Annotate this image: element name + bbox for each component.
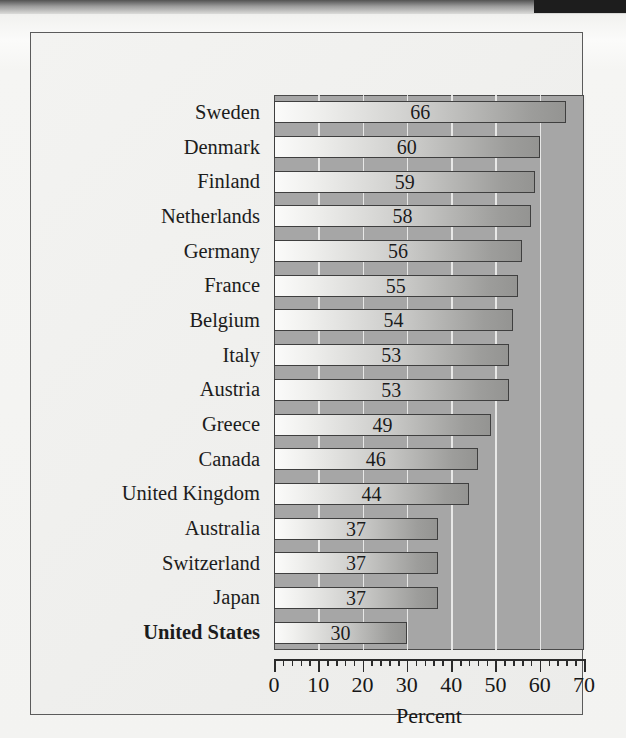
minor-tick-44: [469, 659, 471, 666]
minor-tick-18: [354, 659, 356, 666]
major-tick-60: [540, 659, 542, 672]
category-label: France: [64, 268, 267, 303]
bar-row: 37: [274, 511, 584, 546]
bar-row: 58: [274, 199, 584, 234]
axis-line: [274, 659, 584, 661]
plot-area: 66605958565554535349464437373730: [274, 95, 584, 650]
bar-value-label: 37: [346, 588, 366, 608]
bar-value-label: 44: [361, 484, 381, 504]
bar: 37: [274, 518, 438, 540]
bar-value-label: 55: [386, 276, 406, 296]
minor-tick-34: [425, 659, 427, 666]
minor-tick-48: [487, 659, 489, 666]
bar-value-label: 56: [388, 241, 408, 261]
category-label: Australia: [64, 511, 267, 546]
major-tick-20: [363, 659, 365, 672]
bar-value-label: 66: [410, 102, 430, 122]
tick-label-0: 0: [269, 674, 280, 696]
category-label: Austria: [64, 373, 267, 408]
bar-value-label: 30: [330, 623, 350, 643]
bar: 60: [274, 136, 540, 158]
bar-row: 55: [274, 268, 584, 303]
minor-tick-26: [389, 659, 391, 666]
category-label: Netherlands: [64, 199, 267, 234]
bar-value-label: 46: [366, 449, 386, 469]
bar: 37: [274, 587, 438, 609]
minor-tick-36: [433, 659, 435, 666]
minor-tick-38: [442, 659, 444, 666]
minor-tick-66: [566, 659, 568, 666]
bar-row: 56: [274, 234, 584, 269]
minor-tick-68: [575, 659, 577, 666]
bar: 53: [274, 344, 509, 366]
tick-label-50: 50: [484, 674, 506, 696]
category-label: United Kingdom: [64, 477, 267, 512]
minor-tick-14: [336, 659, 338, 666]
bar: 49: [274, 414, 491, 436]
figure-frame: SwedenDenmarkFinlandNetherlandsGermanyFr…: [30, 32, 583, 715]
bar-row: 53: [274, 338, 584, 373]
bar: 30: [274, 622, 407, 644]
minor-tick-58: [531, 659, 533, 666]
axis-title: Percent: [274, 703, 584, 729]
bar-row: 60: [274, 130, 584, 165]
minor-tick-12: [327, 659, 329, 666]
tick-label-30: 30: [396, 674, 418, 696]
minor-tick-46: [478, 659, 480, 666]
minor-tick-54: [513, 659, 515, 666]
minor-tick-52: [504, 659, 506, 666]
category-label: Finland: [64, 164, 267, 199]
category-label: Belgium: [64, 303, 267, 338]
bar: 56: [274, 240, 522, 262]
bar-value-label: 53: [381, 345, 401, 365]
bar: 59: [274, 171, 535, 193]
minor-tick-22: [371, 659, 373, 666]
major-tick-40: [451, 659, 453, 672]
bar-value-label: 53: [381, 380, 401, 400]
major-tick-30: [407, 659, 409, 672]
bar-value-label: 49: [373, 415, 393, 435]
category-label: Germany: [64, 234, 267, 269]
category-label: Canada: [64, 442, 267, 477]
bar-value-label: 54: [384, 310, 404, 330]
bar-value-label: 59: [395, 172, 415, 192]
bar-value-label: 37: [346, 553, 366, 573]
bar: 54: [274, 309, 513, 331]
minor-tick-64: [557, 659, 559, 666]
bar: 46: [274, 448, 478, 470]
category-label: Denmark: [64, 130, 267, 165]
bar-row: 37: [274, 546, 584, 581]
bar-series: 66605958565554535349464437373730: [274, 95, 584, 650]
category-label: Japan: [64, 581, 267, 616]
major-tick-0: [274, 659, 276, 672]
bar-row: 37: [274, 581, 584, 616]
value-axis: [274, 659, 584, 673]
bar-row: 54: [274, 303, 584, 338]
category-axis-labels: SwedenDenmarkFinlandNetherlandsGermanyFr…: [64, 95, 267, 650]
category-label: Greece: [64, 407, 267, 442]
bar: 44: [274, 483, 469, 505]
bar-row: 44: [274, 477, 584, 512]
tick-label-40: 40: [440, 674, 462, 696]
tick-label-60: 60: [529, 674, 551, 696]
tick-label-20: 20: [352, 674, 374, 696]
minor-tick-16: [345, 659, 347, 666]
tick-label-10: 10: [307, 674, 329, 696]
bar: 58: [274, 205, 531, 227]
category-label: Sweden: [64, 95, 267, 130]
minor-tick-62: [549, 659, 551, 666]
minor-tick-24: [380, 659, 382, 666]
bar-row: 49: [274, 407, 584, 442]
bar-row: 66: [274, 95, 584, 130]
minor-tick-2: [283, 659, 285, 666]
major-tick-70: [584, 659, 586, 672]
bar-value-label: 58: [392, 206, 412, 226]
value-axis-tick-labels: 010203040506070: [274, 674, 584, 702]
major-tick-10: [318, 659, 320, 672]
minor-tick-6: [301, 659, 303, 666]
tick-label-70: 70: [573, 674, 595, 696]
bar: 55: [274, 275, 518, 297]
page-edge-shadow: [534, 0, 626, 13]
category-label: Switzerland: [64, 546, 267, 581]
bar: 37: [274, 552, 438, 574]
